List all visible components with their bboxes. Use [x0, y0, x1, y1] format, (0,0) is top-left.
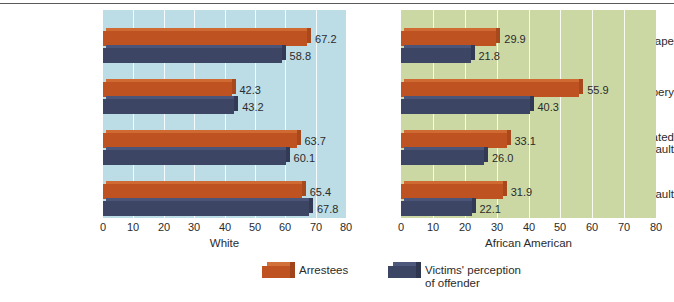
bar-value-label: 22.1	[480, 203, 501, 214]
bar-value-label: 65.4	[310, 186, 331, 197]
legend-label-arrestees: Arrestees	[299, 258, 348, 277]
bar-side-face	[579, 79, 583, 94]
bar-front-face	[401, 99, 530, 114]
bar-african-robbery-arrestees: 55.9	[401, 82, 579, 97]
tick-white-10: 10	[127, 222, 139, 233]
axis-title-white: White	[103, 238, 346, 250]
tick-african-40: 40	[523, 222, 535, 233]
tick-african-50: 50	[554, 222, 566, 233]
tick-african-60: 60	[586, 222, 598, 233]
bar-value-label: 42.3	[240, 84, 261, 95]
panel-white: 67.2 58.8 42.3 43.2 63.7	[103, 10, 346, 218]
bar-african-rape-victims: 21.8	[401, 48, 471, 63]
swatch-side-face	[290, 262, 295, 278]
swatch-side-face	[416, 262, 421, 278]
bar-value-label: 67.8	[317, 203, 338, 214]
bar-white-rape-arrestees: 67.2	[103, 31, 307, 46]
bar-value-label: 21.8	[479, 50, 500, 61]
bar-value-label: 33.1	[515, 135, 536, 146]
bar-white-robbery-victims: 43.2	[103, 99, 234, 114]
tick-african-0: 0	[398, 222, 404, 233]
bar-side-face	[472, 198, 476, 213]
tick-white-40: 40	[219, 222, 231, 233]
bar-front-face	[401, 31, 496, 46]
bar-front-face	[103, 48, 282, 63]
bar-front-face	[401, 201, 472, 216]
bar-front-face	[401, 133, 507, 148]
bar-value-label: 58.8	[290, 50, 311, 61]
bar-value-label: 40.3	[538, 101, 559, 112]
bar-front-face	[103, 31, 307, 46]
legend-label-victims: Victims' perception of offender	[425, 258, 521, 289]
bar-side-face	[507, 130, 511, 145]
bar-value-label: 43.2	[242, 101, 263, 112]
bar-white-aggravated-victims: 60.1	[103, 150, 286, 165]
bar-side-face	[307, 28, 311, 43]
bar-side-face	[232, 79, 236, 94]
bar-value-label: 67.2	[315, 33, 336, 44]
bar-side-face	[309, 198, 313, 213]
bar-side-face	[282, 45, 286, 60]
bar-value-label: 63.7	[305, 135, 326, 146]
bar-african-rape-arrestees: 29.9	[401, 31, 496, 46]
bar-white-robbery-arrestees: 42.3	[103, 82, 232, 97]
bar-white-simple-victims: 67.8	[103, 201, 309, 216]
panel-african-american: 29.9 21.8 55.9 40.3 33.1	[401, 10, 656, 218]
bar-side-face	[496, 28, 500, 43]
tick-african-30: 30	[491, 222, 503, 233]
bar-side-face	[234, 96, 238, 111]
bar-value-label: 55.9	[587, 84, 608, 95]
bar-front-face	[103, 201, 309, 216]
bar-white-simple-arrestees: 65.4	[103, 184, 302, 199]
bar-value-label: 29.9	[504, 33, 525, 44]
bar-african-simple-victims: 22.1	[401, 201, 472, 216]
bar-white-rape-victims: 58.8	[103, 48, 282, 63]
bar-side-face	[297, 130, 301, 145]
tick-african-70: 70	[618, 222, 630, 233]
bar-front-face	[401, 82, 579, 97]
bar-side-face	[484, 147, 488, 162]
swatch-front-face	[262, 266, 290, 278]
bar-front-face	[103, 133, 297, 148]
bar-front-face	[401, 48, 471, 63]
swatch-front-face	[388, 266, 416, 278]
tick-white-60: 60	[279, 222, 291, 233]
bar-african-simple-arrestees: 31.9	[401, 184, 503, 199]
tick-white-80: 80	[340, 222, 352, 233]
bar-value-label: 26.0	[492, 152, 513, 163]
bar-value-label: 60.1	[294, 152, 315, 163]
bar-side-face	[286, 147, 290, 162]
legend-swatch-victims-icon	[388, 262, 416, 278]
tick-african-10: 10	[427, 222, 439, 233]
tick-white-50: 50	[249, 222, 261, 233]
bar-value-label: 31.9	[511, 186, 532, 197]
bar-white-aggravated-arrestees: 63.7	[103, 133, 297, 148]
bar-front-face	[103, 82, 232, 97]
bar-african-robbery-victims: 40.3	[401, 99, 530, 114]
top-divider-rule	[0, 3, 674, 4]
bar-front-face	[103, 184, 302, 199]
bar-side-face	[503, 181, 507, 196]
tick-african-80: 80	[650, 222, 662, 233]
tick-white-70: 70	[310, 222, 322, 233]
axis-title-african-american: African American	[401, 238, 656, 250]
chart-legend: Arrestees Victims' perception of offende…	[0, 258, 674, 298]
bar-african-aggravated-arrestees: 33.1	[401, 133, 507, 148]
chart-figure: 67.2 58.8 42.3 43.2 63.7	[0, 0, 674, 302]
legend-entry-victims: Victims' perception of offender	[388, 258, 521, 289]
bar-front-face	[103, 99, 234, 114]
gridline-a-60	[592, 10, 593, 218]
bar-front-face	[401, 150, 484, 165]
legend-swatch-arrestees-icon	[262, 262, 290, 278]
tick-white-20: 20	[158, 222, 170, 233]
tick-white-0: 0	[100, 222, 106, 233]
bar-front-face	[103, 150, 286, 165]
bar-side-face	[530, 96, 534, 111]
tick-african-20: 20	[459, 222, 471, 233]
gridline-a-50	[560, 10, 561, 218]
gridline-a-70	[624, 10, 625, 218]
bar-side-face	[302, 181, 306, 196]
bar-side-face	[471, 45, 475, 60]
tick-white-30: 30	[188, 222, 200, 233]
bar-front-face	[401, 184, 503, 199]
